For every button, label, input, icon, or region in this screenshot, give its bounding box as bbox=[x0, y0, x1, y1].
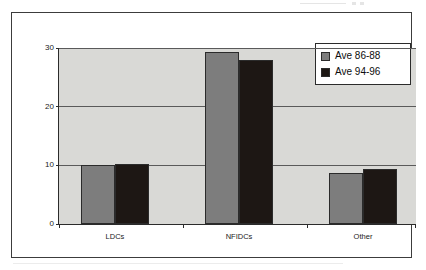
y-axis-tick-label: 10 bbox=[45, 161, 54, 169]
legend-swatch-icon bbox=[321, 68, 330, 77]
y-axis-tick-mark bbox=[56, 165, 59, 166]
scan-artifact bbox=[300, 3, 346, 4]
x-axis-tick-mark bbox=[183, 224, 184, 228]
chart-screenshot: Ave 86-88 Ave 94-96 0102030LDCsNFIDCsOth… bbox=[0, 0, 426, 270]
y-axis-tick-label: 30 bbox=[45, 44, 54, 52]
x-axis-tick-mark bbox=[59, 224, 60, 228]
bar-ldcs-series-0 bbox=[81, 165, 115, 224]
scan-artifact bbox=[360, 2, 364, 5]
scan-artifact bbox=[352, 2, 356, 5]
y-axis-tick-label: 20 bbox=[45, 103, 54, 111]
plot-area: Ave 86-88 Ave 94-96 0102030LDCsNFIDCsOth… bbox=[58, 48, 416, 225]
bar-nfidcs-series-1 bbox=[239, 60, 273, 224]
legend-swatch-icon bbox=[321, 52, 330, 61]
bar-nfidcs-series-0 bbox=[205, 52, 239, 224]
x-axis-tick-mark bbox=[415, 224, 416, 228]
chart-legend: Ave 86-88 Ave 94-96 bbox=[315, 43, 411, 85]
x-axis-label-ldcs: LDCs bbox=[106, 233, 125, 241]
bar-other-series-0 bbox=[329, 173, 363, 224]
bar-other-series-1 bbox=[363, 169, 397, 224]
legend-label: Ave 86-88 bbox=[335, 51, 380, 61]
legend-item-ave-86-88: Ave 86-88 bbox=[321, 48, 405, 64]
y-axis-tick-mark bbox=[56, 106, 59, 107]
x-axis-label-nfidcs: NFIDCs bbox=[226, 233, 253, 241]
y-axis-tick-label: 0 bbox=[50, 220, 54, 228]
gridline bbox=[59, 48, 416, 49]
scan-artifact bbox=[13, 263, 343, 264]
chart-frame: Ave 86-88 Ave 94-96 0102030LDCsNFIDCsOth… bbox=[11, 12, 412, 258]
x-axis-tick-mark bbox=[307, 224, 308, 228]
legend-item-ave-94-96: Ave 94-96 bbox=[321, 64, 405, 80]
y-axis-tick-mark bbox=[56, 48, 59, 49]
x-axis-label-other: Other bbox=[354, 233, 373, 241]
bar-ldcs-series-1 bbox=[115, 164, 149, 224]
legend-label: Ave 94-96 bbox=[335, 67, 380, 77]
